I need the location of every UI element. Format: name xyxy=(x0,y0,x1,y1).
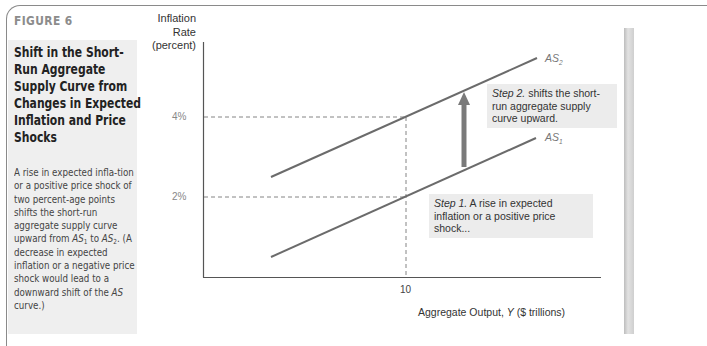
as2-label: AS2 xyxy=(545,52,563,66)
step1-annotation: Step 1. A rise in expected inflation or … xyxy=(429,194,593,238)
x-axis-label: Aggregate Output, Y ($ trillions) xyxy=(418,306,565,318)
y-axis-label: Inflation Rate (percent) xyxy=(148,12,196,53)
y-tick-4pct: 4% xyxy=(172,111,186,122)
shift-arrow-head xyxy=(458,92,470,105)
y-tick-2pct: 2% xyxy=(172,191,186,202)
step2-annotation: Step 2. shifts the short-run aggregate s… xyxy=(487,84,617,128)
as1-label: AS1 xyxy=(545,131,563,145)
x-tick-10: 10 xyxy=(400,284,411,295)
